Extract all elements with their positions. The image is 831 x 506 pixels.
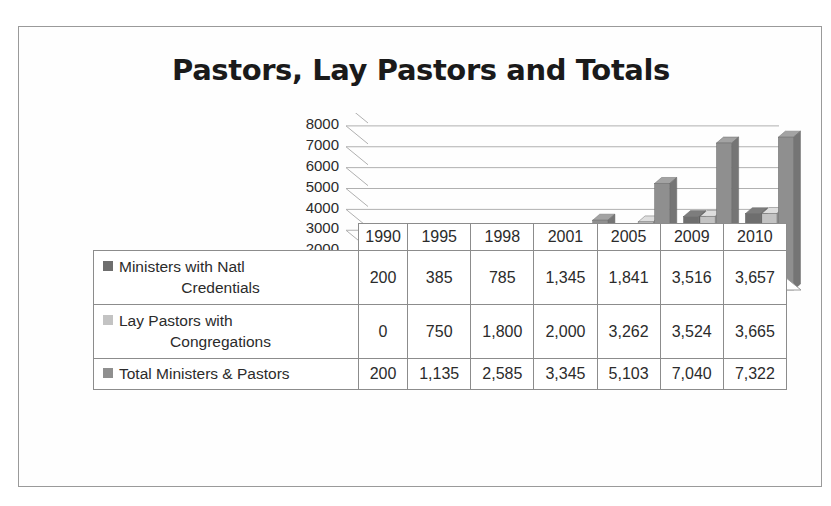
table-year-header-2010: 2010 — [723, 224, 786, 251]
table-row: Total Ministers & Pastors2001,1352,5853,… — [94, 359, 787, 390]
table-cell-r1-2009: 3,516 — [660, 251, 723, 305]
table-cell-r1-2005: 1,841 — [597, 251, 660, 305]
y-axis-tick-7000: 7000 — [251, 137, 339, 152]
table-cell-r3-2009: 7,040 — [660, 359, 723, 390]
gridline-6000 — [346, 147, 779, 165]
table-cell-r2-2001: 2,000 — [534, 305, 597, 359]
series-legend-label-1: Ministers with NatlCredentials — [94, 251, 359, 305]
series-legend-label-3: Total Ministers & Pastors — [94, 359, 359, 390]
table-cell-r3-2010: 7,322 — [723, 359, 786, 390]
table-cell-r3-1998: 2,585 — [471, 359, 534, 390]
table-cell-r3-2005: 5,103 — [597, 359, 660, 390]
table-year-header-1990: 1990 — [359, 224, 408, 251]
y-axis-tick-5000: 5000 — [251, 179, 339, 194]
document-page-frame: Pastors, Lay Pastors and Totals 80007000… — [18, 26, 822, 487]
table-year-header-1995: 1995 — [408, 224, 471, 251]
gridline-8000 — [346, 113, 779, 123]
chart-data-table: 1990199519982001200520092010 Ministers w… — [93, 223, 787, 390]
table-year-header-2001: 2001 — [534, 224, 597, 251]
legend-swatch-icon — [103, 368, 113, 378]
table-cell-r3-2001: 3,345 — [534, 359, 597, 390]
table-cell-r1-1998: 785 — [471, 251, 534, 305]
gridline-4000 — [346, 189, 779, 207]
table-cell-r1-2010: 3,657 — [723, 251, 786, 305]
gridline-5000 — [346, 168, 779, 186]
table-cell-r1-1990: 200 — [359, 251, 408, 305]
table-header-label-spacer — [94, 224, 359, 251]
legend-label-line2: Credentials — [103, 278, 354, 298]
legend-label-line1: Total Ministers & Pastors — [119, 365, 290, 382]
y-axis-tick-6000: 6000 — [251, 158, 339, 173]
legend-swatch-icon — [103, 315, 113, 325]
table-cell-r1-2001: 1,345 — [534, 251, 597, 305]
table-year-header-2005: 2005 — [597, 224, 660, 251]
table-cell-r2-1995: 750 — [408, 305, 471, 359]
table-body: Ministers with NatlCredentials2003857851… — [94, 251, 787, 390]
table-cell-r1-1995: 385 — [408, 251, 471, 305]
table-cell-r2-2010: 3,665 — [723, 305, 786, 359]
y-axis-tick-4000: 4000 — [251, 200, 339, 215]
table-cell-r3-1995: 1,135 — [408, 359, 471, 390]
table-cell-r2-2005: 3,262 — [597, 305, 660, 359]
table-header-row: 1990199519982001200520092010 — [94, 224, 787, 251]
y-axis-tick-8000: 8000 — [251, 116, 339, 131]
table-cell-r3-1990: 200 — [359, 359, 408, 390]
chart-title: Pastors, Lay Pastors and Totals — [19, 53, 823, 87]
legend-label-line1: Lay Pastors with — [119, 312, 233, 329]
legend-label-line2: Congregations — [103, 332, 354, 352]
table-row: Lay Pastors withCongregations07501,8002,… — [94, 305, 787, 359]
legend-swatch-icon — [103, 261, 113, 271]
table-row: Ministers with NatlCredentials2003857851… — [94, 251, 787, 305]
table-cell-r2-1998: 1,800 — [471, 305, 534, 359]
table-year-header-2009: 2009 — [660, 224, 723, 251]
legend-label-line1: Ministers with Natl — [119, 258, 245, 275]
table-year-header-1998: 1998 — [471, 224, 534, 251]
gridline-7000 — [346, 126, 779, 144]
table-cell-r2-1990: 0 — [359, 305, 408, 359]
series-legend-label-2: Lay Pastors withCongregations — [94, 305, 359, 359]
table-cell-r2-2009: 3,524 — [660, 305, 723, 359]
